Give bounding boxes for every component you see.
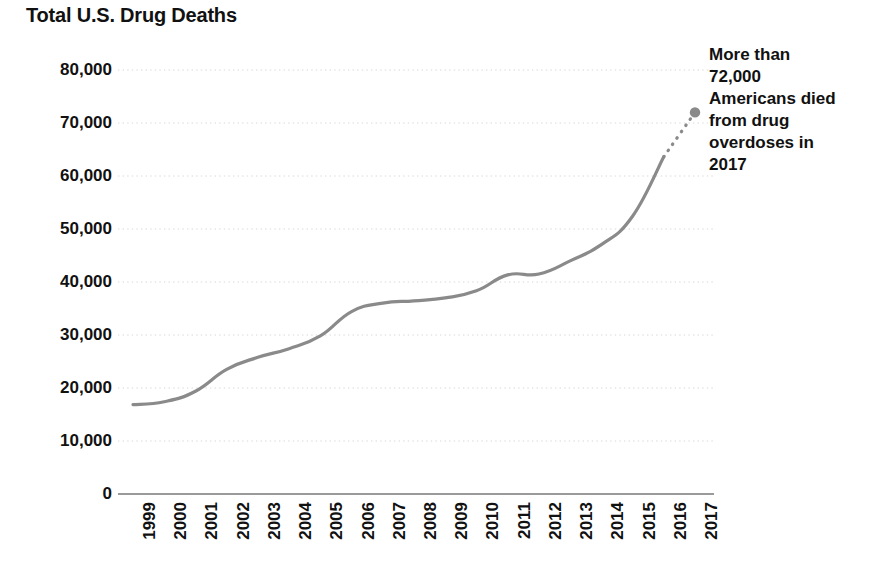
y-tick-label: 30,000: [0, 325, 112, 345]
y-tick-label: 80,000: [0, 60, 112, 80]
x-tick-label: 2017: [702, 502, 722, 540]
x-tick: 2011: [498, 502, 518, 578]
endpoint-marker-2017: [690, 107, 700, 117]
annotation-line-2: 72,000: [709, 66, 887, 88]
x-tick: 2006: [342, 502, 362, 578]
x-tick: 2009: [435, 502, 455, 578]
annotation-line-1: More than: [709, 44, 887, 66]
x-axis: 1999200020012002200320042005200620072008…: [118, 500, 714, 580]
y-tick-label: 0: [0, 484, 112, 504]
annotation-line-3: Americans died: [709, 88, 887, 110]
data-line-dotted-projection: [664, 112, 695, 156]
y-tick-label: 50,000: [0, 219, 112, 239]
annotation-line-4: from drug: [709, 110, 887, 132]
x-tick: 2003: [248, 502, 268, 578]
x-tick: 1999: [123, 502, 143, 578]
x-tick: 2004: [279, 502, 299, 578]
y-tick-label: 40,000: [0, 272, 112, 292]
chart-figure: Total U.S. Drug Deaths 010,00020,00030,0…: [0, 0, 890, 583]
line-chart-svg: [118, 70, 714, 494]
y-tick-label: 20,000: [0, 378, 112, 398]
data-line-solid: [133, 157, 664, 405]
x-tick: 2008: [404, 502, 424, 578]
plot-area: [118, 70, 714, 494]
callout-annotation: More than 72,000 Americans died from dru…: [709, 44, 887, 176]
y-axis: 010,00020,00030,00040,00050,00060,00070,…: [0, 0, 112, 583]
x-tick: 2015: [623, 502, 643, 578]
annotation-line-6: 2017: [709, 154, 887, 176]
y-tick-label: 70,000: [0, 113, 112, 133]
annotation-line-5: overdoses in: [709, 132, 887, 154]
x-tick: 2005: [310, 502, 330, 578]
x-tick: 2013: [560, 502, 580, 578]
x-tick: 2001: [185, 502, 205, 578]
x-tick: 2007: [373, 502, 393, 578]
x-tick: 2000: [154, 502, 174, 578]
y-tick-label: 60,000: [0, 166, 112, 186]
x-tick: 2016: [654, 502, 674, 578]
x-axis-line: [118, 493, 714, 495]
x-tick: 2012: [529, 502, 549, 578]
y-tick-label: 10,000: [0, 431, 112, 451]
x-tick: 2010: [466, 502, 486, 578]
x-tick: 2002: [217, 502, 237, 578]
x-tick: 2014: [591, 502, 611, 578]
x-tick: 2017: [685, 502, 705, 578]
